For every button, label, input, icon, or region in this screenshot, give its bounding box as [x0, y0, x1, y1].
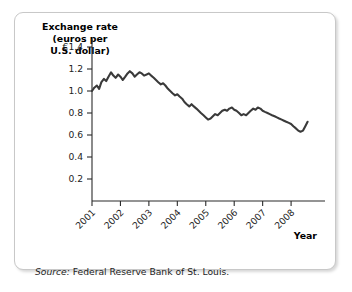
figure-card: Exchange rate (euros per U.S. dollar) 0.…: [14, 12, 336, 270]
x-axis-tick-label: 2007: [244, 207, 268, 231]
y-axis-tick-marks: [87, 47, 92, 179]
exchange-rate-series-line: [92, 71, 308, 132]
source-note: Source: Federal Reserve Bank of St. Loui…: [35, 266, 229, 277]
y-axis-tick-label: 1.2: [68, 63, 83, 74]
y-axis-tick-labels: 0.20.40.60.81.01.2€1.4: [63, 41, 84, 184]
x-axis-tick-label: 2004: [158, 207, 182, 231]
line-chart-plot: 0.20.40.60.81.01.2€1.4 20012002200320042…: [15, 13, 337, 271]
source-text: Federal Reserve Bank of St. Louis.: [70, 266, 229, 277]
source-label: Source:: [35, 266, 70, 277]
x-axis-tick-label: 2002: [102, 207, 126, 231]
y-axis-tick-label: 0.2: [68, 173, 83, 184]
x-axis-title: Year: [293, 230, 318, 241]
x-axis-tick-label: 2005: [187, 207, 211, 231]
x-axis-tick-label: 2006: [215, 207, 239, 231]
y-axis-tick-label: 0.4: [68, 151, 83, 162]
x-axis-tick-label: 2003: [130, 207, 154, 231]
x-axis-tick-marks: [92, 201, 291, 206]
y-axis-tick-label: 0.6: [68, 129, 83, 140]
y-axis-tick-label: €1.4: [63, 41, 84, 52]
x-axis-tick-labels: 20012002200320042005200620072008: [73, 207, 297, 231]
y-axis-tick-label: 1.0: [68, 85, 83, 96]
x-axis-tick-label: 2001: [73, 207, 97, 231]
x-axis-tick-label: 2008: [272, 207, 296, 231]
y-axis-tick-label: 0.8: [68, 107, 83, 118]
